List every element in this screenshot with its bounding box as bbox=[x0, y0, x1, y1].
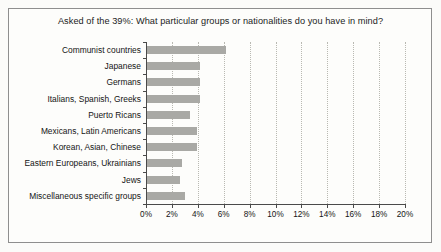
y-axis-tick bbox=[143, 74, 146, 75]
bar bbox=[146, 46, 226, 54]
y-axis-line bbox=[146, 42, 147, 205]
x-axis-tick-label: 8% bbox=[244, 210, 256, 219]
x-axis-tick-label: 16% bbox=[345, 210, 361, 219]
x-axis-tick bbox=[379, 204, 380, 208]
category-label: Germans bbox=[20, 74, 141, 90]
x-axis-tick bbox=[224, 204, 225, 208]
x-axis-tick bbox=[405, 204, 406, 208]
x-axis-tick-label: 18% bbox=[371, 210, 387, 219]
x-axis-line bbox=[146, 204, 406, 205]
x-axis-tick-label: 10% bbox=[267, 210, 283, 219]
category-label-text: Communist countries bbox=[62, 45, 141, 55]
bar-row bbox=[146, 91, 405, 107]
bar bbox=[146, 111, 190, 119]
bar bbox=[146, 78, 200, 86]
x-axis-tick-label: 14% bbox=[319, 210, 335, 219]
category-label: Eastern Europeans, Ukrainians bbox=[20, 155, 141, 171]
category-label: Communist countries bbox=[20, 42, 141, 58]
category-label: Puerto Ricans bbox=[20, 107, 141, 123]
y-axis-tick bbox=[143, 188, 146, 189]
category-label: Miscellaneous specific groups bbox=[20, 188, 141, 204]
category-label: Italians, Spanish, Greeks bbox=[20, 91, 141, 107]
bar bbox=[146, 95, 200, 103]
y-axis-tick bbox=[143, 107, 146, 108]
bar-row bbox=[146, 188, 405, 204]
bar-row bbox=[146, 42, 405, 58]
category-label-text: Miscellaneous specific groups bbox=[29, 191, 141, 201]
y-axis-tick bbox=[143, 42, 146, 43]
y-axis-tick bbox=[143, 172, 146, 173]
category-label-text: Mexicans, Latin Americans bbox=[41, 126, 141, 136]
x-axis-tick bbox=[276, 204, 277, 208]
y-axis-tick bbox=[143, 155, 146, 156]
bar bbox=[146, 176, 180, 184]
category-label-text: Japanese bbox=[105, 61, 141, 71]
bar bbox=[146, 62, 200, 70]
bar-row bbox=[146, 139, 405, 155]
x-axis-tick-label: 2% bbox=[166, 210, 178, 219]
x-axis-tick-label: 4% bbox=[192, 210, 204, 219]
bar-row bbox=[146, 155, 405, 171]
category-label-text: Eastern Europeans, Ukrainians bbox=[25, 158, 142, 168]
bar-row bbox=[146, 58, 405, 74]
x-axis-tick bbox=[353, 204, 354, 208]
category-label: Korean, Asian, Chinese bbox=[20, 139, 141, 155]
x-axis-tick bbox=[327, 204, 328, 208]
y-axis-tick bbox=[143, 123, 146, 124]
x-axis-tick-label: 12% bbox=[293, 210, 309, 219]
bar bbox=[146, 159, 182, 167]
category-label-text: Germans bbox=[106, 77, 141, 87]
value-axis-labels: 0%2%4%6%8%10%12%14%16%18%20% bbox=[146, 210, 406, 224]
x-axis-tick-label: 6% bbox=[218, 210, 230, 219]
y-axis-tick bbox=[143, 58, 146, 59]
bar bbox=[146, 143, 197, 151]
bar bbox=[146, 192, 185, 200]
category-label-text: Italians, Spanish, Greeks bbox=[47, 94, 141, 104]
y-axis-tick bbox=[143, 139, 146, 140]
category-label-text: Puerto Ricans bbox=[88, 110, 141, 120]
chart-figure: Asked of the 39%: What particular groups… bbox=[0, 0, 441, 252]
x-axis-tick bbox=[146, 204, 147, 208]
x-axis-tick bbox=[250, 204, 251, 208]
bar-row bbox=[146, 172, 405, 188]
bar-row bbox=[146, 107, 405, 123]
category-label: Japanese bbox=[20, 58, 141, 74]
plot-wrapper: Communist countriesJapaneseGermansItalia… bbox=[0, 0, 441, 252]
category-label-text: Korean, Asian, Chinese bbox=[53, 142, 141, 152]
category-label: Jews bbox=[20, 172, 141, 188]
x-axis-tick bbox=[172, 204, 173, 208]
x-axis-tick-label: 0% bbox=[140, 210, 152, 219]
gridline bbox=[405, 42, 406, 204]
category-axis-labels: Communist countriesJapaneseGermansItalia… bbox=[20, 42, 141, 204]
x-axis-tick bbox=[301, 204, 302, 208]
bar-row bbox=[146, 74, 405, 90]
bar-row bbox=[146, 123, 405, 139]
x-axis-tick bbox=[198, 204, 199, 208]
y-axis-tick bbox=[143, 91, 146, 92]
category-label-text: Jews bbox=[122, 175, 141, 185]
plot-area bbox=[146, 42, 405, 204]
category-label: Mexicans, Latin Americans bbox=[20, 123, 141, 139]
bar bbox=[146, 127, 197, 135]
x-axis-tick-label: 20% bbox=[397, 210, 413, 219]
